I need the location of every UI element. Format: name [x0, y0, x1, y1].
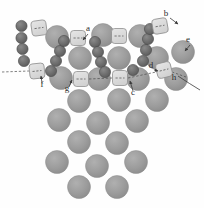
- annotation-label-c: c: [131, 87, 135, 97]
- substrate-atom: [106, 176, 129, 199]
- dimer-f: [29, 63, 45, 79]
- adatom: [16, 32, 27, 43]
- dimer-mid-top: [112, 29, 127, 44]
- dimer-g: [74, 72, 89, 87]
- adatom: [92, 46, 103, 57]
- substrate-atom: [46, 151, 69, 174]
- adatom: [18, 55, 29, 66]
- annotation-label-d: d: [149, 60, 154, 70]
- substrate-atom: [106, 132, 129, 155]
- adatom: [95, 56, 106, 67]
- dimer-upper-left: [31, 20, 48, 37]
- adatom: [127, 64, 138, 75]
- dimer-c: [113, 71, 128, 86]
- adatom: [54, 45, 65, 56]
- substrate-atom-layer: [46, 24, 195, 199]
- adatom: [99, 66, 110, 77]
- substrate-atom: [87, 112, 110, 135]
- adatom: [137, 55, 148, 66]
- substrate-atom: [146, 89, 169, 112]
- substrate-atom: [108, 47, 131, 70]
- substrate-atom: [48, 109, 71, 132]
- adatom: [89, 36, 100, 47]
- dimer-b: [151, 17, 168, 34]
- annotation-label-h: h: [172, 72, 177, 82]
- annotation-label-f: f: [41, 79, 44, 89]
- substrate-atom: [68, 131, 91, 154]
- substrate-atom: [108, 89, 131, 112]
- dimer-d: [155, 61, 173, 79]
- connector-left-edge: [2, 71, 29, 72]
- substrate-atom: [172, 41, 195, 64]
- adatom: [58, 35, 69, 46]
- substrate-atom: [86, 155, 109, 178]
- annotation-label-a: a: [86, 23, 90, 33]
- adatom: [45, 65, 56, 76]
- annotation-label-b: b: [164, 8, 169, 18]
- annotation-label-e: e: [186, 34, 190, 44]
- adatom: [17, 43, 28, 54]
- leader-b: [170, 18, 178, 24]
- surface-model-svg: abcdefgh: [0, 0, 204, 208]
- substrate-atom: [126, 110, 149, 133]
- adatom: [16, 20, 27, 31]
- substrate-atom: [68, 90, 91, 113]
- substrate-atom: [68, 176, 91, 199]
- figure-canvas: abcdefgh: [0, 0, 204, 208]
- adatom: [50, 55, 61, 66]
- substrate-atom: [125, 151, 148, 174]
- dimer-a: [71, 31, 86, 46]
- adatom: [142, 33, 153, 44]
- annotation-label-g: g: [65, 83, 70, 93]
- substrate-atom: [69, 47, 92, 70]
- adatom: [140, 44, 151, 55]
